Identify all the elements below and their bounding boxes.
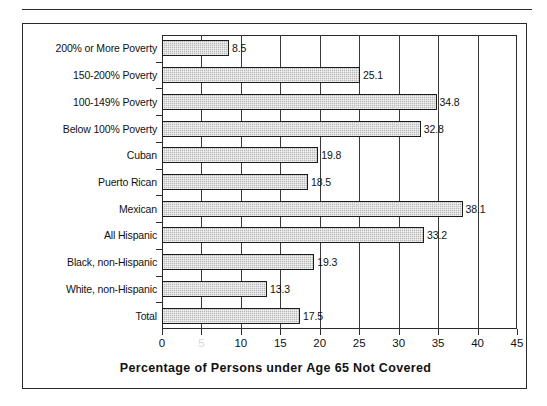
bar-row: 32.8	[162, 121, 517, 137]
value-axis-tick-label: 45	[511, 337, 524, 349]
bar	[162, 308, 300, 324]
bar-value-label: 32.8	[424, 123, 444, 135]
value-axis-tick-label: 20	[313, 337, 326, 349]
bar-row: 25.1	[162, 67, 517, 83]
bar-value-label: 13.3	[270, 283, 290, 295]
bar	[162, 40, 229, 56]
bar-row: 17.5	[162, 308, 517, 324]
bar-value-label: 8.5	[232, 42, 246, 54]
value-axis-tick-label: 40	[471, 337, 484, 349]
value-axis-tick-label: 0	[159, 337, 165, 349]
value-axis-tick-labels: 051015202530354045	[23, 337, 528, 355]
bar-row: 13.3	[162, 281, 517, 297]
value-axis-tick	[399, 329, 400, 335]
value-axis-tick	[280, 329, 281, 335]
category-axis-ticks	[23, 35, 162, 329]
value-axis-tick-label: 5	[198, 337, 204, 349]
figure-frame: 200% or More Poverty150-200% Poverty100-…	[22, 23, 527, 389]
bar	[162, 174, 308, 190]
bar	[162, 67, 360, 83]
bar	[162, 147, 318, 163]
value-axis-tick	[359, 329, 360, 335]
bar	[162, 121, 421, 137]
value-axis-tick	[320, 329, 321, 335]
bar	[162, 254, 314, 270]
bar-value-label: 34.8	[440, 96, 460, 108]
bar-value-label: 19.3	[317, 256, 337, 268]
value-axis-tick	[241, 329, 242, 335]
bar	[162, 227, 424, 243]
value-axis-tick-label: 15	[274, 337, 287, 349]
bars-layer: 8.525.134.832.819.818.538.133.219.313.31…	[162, 35, 517, 329]
value-axis-tick	[438, 329, 439, 335]
bar-row: 8.5	[162, 40, 517, 56]
bar	[162, 94, 437, 110]
bar-value-label: 17.5	[303, 310, 323, 322]
x-axis-title: Percentage of Persons under Age 65 Not C…	[23, 361, 528, 375]
bar	[162, 281, 267, 297]
bar-row: 33.2	[162, 227, 517, 243]
value-axis-tick	[162, 329, 163, 335]
value-axis-tick-label: 10	[234, 337, 247, 349]
value-axis-tick	[517, 329, 518, 335]
bar-value-label: 19.8	[321, 149, 341, 161]
bar	[162, 201, 463, 217]
bar-row: 34.8	[162, 94, 517, 110]
top-horizontal-rule	[22, 9, 532, 10]
bar-value-label: 38.1	[466, 203, 486, 215]
value-axis-tick-label: 35	[432, 337, 445, 349]
bar-row: 18.5	[162, 174, 517, 190]
bar-row: 38.1	[162, 201, 517, 217]
bar-row: 19.8	[162, 147, 517, 163]
bar-value-label: 18.5	[311, 176, 331, 188]
value-axis-tick	[478, 329, 479, 335]
value-axis-tick	[201, 329, 202, 335]
bar-chart: 200% or More Poverty150-200% Poverty100-…	[23, 24, 528, 390]
bar-row: 19.3	[162, 254, 517, 270]
bar-value-label: 25.1	[363, 69, 383, 81]
bar-value-label: 33.2	[427, 229, 447, 241]
value-axis-tick-label: 30	[392, 337, 405, 349]
value-axis-tick-label: 25	[353, 337, 366, 349]
value-axis-ticks	[162, 329, 517, 336]
